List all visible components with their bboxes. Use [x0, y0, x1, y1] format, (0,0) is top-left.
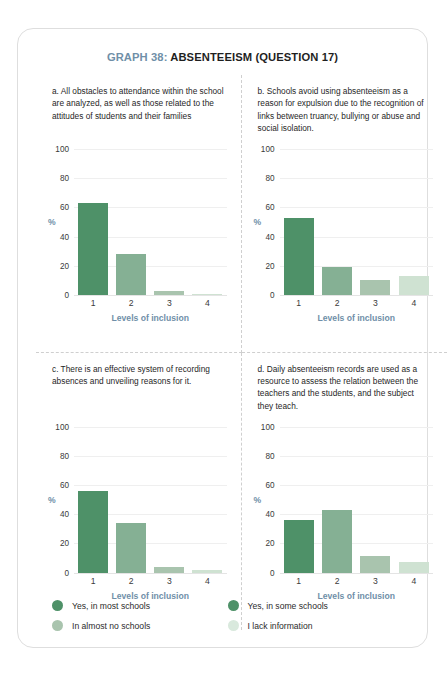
panel-c-xaxis-title: Levels of inclusion [74, 591, 227, 601]
xtick-label-2: 2 [320, 576, 354, 586]
ytick-label-100: 100 [261, 145, 275, 154]
ytick-label-100: 100 [261, 422, 275, 431]
ytick-label-60: 60 [265, 203, 274, 212]
ytick-label-20: 20 [265, 539, 274, 548]
ytick-label-40: 40 [265, 232, 274, 241]
ytick-label-80: 80 [265, 451, 274, 460]
legend-item[interactable]: Yes, in most schools [52, 600, 218, 611]
ytick-label-20: 20 [60, 261, 69, 270]
panel-b-chart: 100806040200% 1234 Levels of inclusion [252, 143, 438, 318]
bar-slot [359, 149, 393, 295]
ytick-label-60: 60 [265, 480, 274, 489]
bar-4 [399, 562, 429, 572]
legend-label: I lack information [248, 621, 313, 631]
ytick-label-40: 40 [60, 232, 69, 241]
xtick-label-4: 4 [397, 298, 431, 308]
ytick-label-0: 0 [270, 568, 275, 577]
panel-d-chart: 100806040200% 1234 Levels of inclusion [252, 421, 438, 596]
ytick-label-0: 0 [64, 568, 69, 577]
legend-item[interactable]: Yes, in some schools [228, 600, 394, 611]
bar-1 [284, 218, 314, 295]
ytick-label-100: 100 [55, 422, 69, 431]
panel-d-plot-area: 100806040200% [280, 427, 434, 573]
legend-swatch-icon [228, 620, 239, 631]
xtick-label-4: 4 [191, 298, 225, 308]
xtick-label-1: 1 [282, 298, 316, 308]
ytick-label-0: 0 [270, 291, 275, 300]
panel-a-bars [74, 149, 227, 295]
bar-slot [153, 427, 187, 573]
legend-item[interactable]: I lack information [228, 620, 394, 631]
legend-label: Yes, in some schools [248, 601, 328, 611]
bar-2 [322, 510, 352, 573]
xtick-label-4: 4 [397, 576, 431, 586]
xtick-label-1: 1 [76, 576, 110, 586]
bar-slot [153, 149, 187, 295]
panel-c-bars [74, 427, 227, 573]
bar-slot [320, 149, 354, 295]
panel-b-xticks: 1234 [280, 298, 434, 308]
gridline-0: 0 [280, 295, 434, 296]
bar-slot [191, 149, 225, 295]
panel-a: a. All obstacles to attendance within th… [36, 75, 242, 353]
bar-1 [78, 203, 108, 295]
legend-label: Yes, in most schools [72, 601, 150, 611]
panel-d: d. Daily absenteeism records are used as… [242, 353, 447, 631]
panel-d-yaxis-label: % [254, 495, 262, 505]
ytick-label-40: 40 [265, 510, 274, 519]
ytick-label-60: 60 [60, 480, 69, 489]
panel-b-plot-area: 100806040200% [280, 149, 434, 295]
xtick-label-2: 2 [320, 298, 354, 308]
xtick-label-3: 3 [359, 298, 393, 308]
legend-item[interactable]: In almost no schools [52, 620, 218, 631]
xtick-label-4: 4 [191, 576, 225, 586]
bar-slot [282, 427, 316, 573]
bar-4 [192, 570, 222, 573]
bar-slot [359, 427, 393, 573]
ytick-label-80: 80 [265, 174, 274, 183]
bar-slot [320, 427, 354, 573]
bar-slot [282, 149, 316, 295]
gridline-0: 0 [74, 573, 227, 574]
bar-slot [114, 427, 148, 573]
ytick-label-60: 60 [60, 203, 69, 212]
panel-a-yaxis-label: % [48, 217, 56, 227]
panel-b: b. Schools avoid using absenteeism as a … [242, 75, 447, 353]
panel-c-xticks: 1234 [74, 576, 227, 586]
xtick-label-1: 1 [76, 298, 110, 308]
panel-b-xaxis-title: Levels of inclusion [280, 313, 434, 323]
panel-grid: a. All obstacles to attendance within th… [36, 75, 447, 630]
ytick-label-20: 20 [265, 261, 274, 270]
bar-3 [360, 556, 390, 572]
gridline-0: 0 [280, 573, 434, 574]
bar-slot [114, 149, 148, 295]
legend-swatch-icon [228, 600, 239, 611]
xtick-label-3: 3 [153, 298, 187, 308]
panel-d-caption: d. Daily absenteeism records are used as… [252, 353, 438, 417]
panel-a-xticks: 1234 [74, 298, 227, 308]
bar-3 [360, 280, 390, 295]
gridline-0: 0 [74, 295, 227, 296]
panel-d-xticks: 1234 [280, 576, 434, 586]
ytick-label-80: 80 [60, 451, 69, 460]
bar-2 [322, 267, 352, 295]
ytick-label-20: 20 [60, 539, 69, 548]
bar-slot [76, 149, 110, 295]
ytick-label-100: 100 [55, 145, 69, 154]
xtick-label-1: 1 [282, 576, 316, 586]
panel-a-chart: 100806040200% 1234 Levels of inclusion [46, 143, 231, 318]
bar-2 [116, 254, 146, 295]
bar-slot [76, 427, 110, 573]
panel-c-caption: c. There is an effective system of recor… [46, 353, 231, 417]
panel-d-bars [280, 427, 434, 573]
xtick-label-3: 3 [359, 576, 393, 586]
legend-swatch-icon [52, 620, 63, 631]
panel-a-xaxis-title: Levels of inclusion [74, 313, 227, 323]
ytick-label-80: 80 [60, 174, 69, 183]
legend-swatch-icon [52, 600, 63, 611]
panel-b-yaxis-label: % [254, 217, 262, 227]
bar-slot [191, 427, 225, 573]
chart-legend: Yes, in most schoolsYes, in some schools… [18, 600, 427, 631]
panel-c-yaxis-label: % [48, 495, 56, 505]
graph-title-wrap: GRAPH 38: ABSENTEEISM (QUESTION 17) [18, 47, 427, 65]
